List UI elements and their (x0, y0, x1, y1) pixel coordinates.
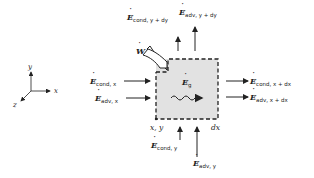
flow-label-adv-x: Eadv, x (95, 94, 118, 105)
z-axis-label: z (13, 101, 17, 109)
flow-label-adv-y: Eadv, y (193, 159, 216, 170)
control-volume-diagram: y x z W Eg Econd, y + dy Eadv, y + dy Ec… (0, 0, 314, 178)
flow-label-cond-x: Econd, x (90, 77, 116, 88)
coordinate-axes (21, 72, 50, 101)
flow-label-cond-x-dx: Econd, x + dx (250, 77, 291, 88)
flow-label-adv-x-dx: Eadv, x + dx (250, 93, 288, 104)
flow-label-cond-y: Econd, y (151, 141, 177, 152)
y-axis-label: y (28, 63, 32, 71)
dx-label: dx (211, 124, 220, 132)
work-label: W (136, 47, 145, 56)
shaft-work-icon (143, 46, 167, 70)
origin-label: x, y (150, 124, 163, 132)
flow-label-adv-y-dy: Eadv, y + dy (179, 8, 217, 19)
x-axis-label: x (54, 87, 58, 95)
generation-label: Eg (182, 78, 192, 89)
flow-label-cond-y-dy: Econd, y + dy (127, 13, 168, 24)
